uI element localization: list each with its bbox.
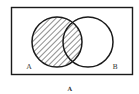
set-a-label: A <box>26 63 33 71</box>
figure-caption: A <box>67 85 73 92</box>
venn-diagram-figure: A B A <box>0 0 139 94</box>
set-b-label: B <box>113 63 118 71</box>
shaded-region-a <box>30 15 85 70</box>
venn-diagram-svg: A B A <box>0 0 139 94</box>
